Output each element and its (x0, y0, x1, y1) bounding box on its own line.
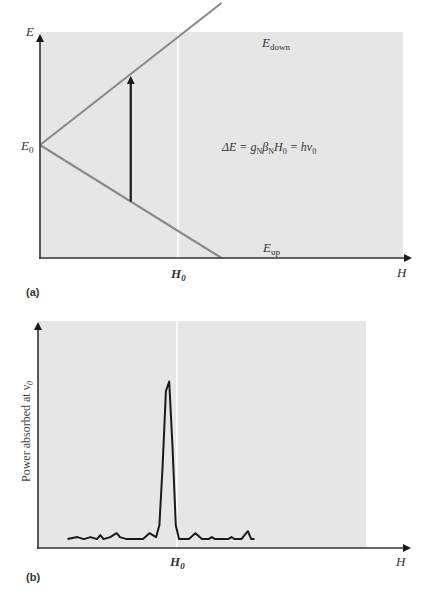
panel-b: Power absorbed at ν0 H H0 (b) (19, 321, 409, 583)
eq-hv: = hν (287, 140, 313, 154)
e-up-sub: up (271, 247, 281, 257)
e-down-main: E (261, 35, 270, 50)
e0-main: E (20, 138, 29, 153)
h0-sub-b: 0 (180, 561, 185, 571)
h-axis-label-b: H (395, 554, 406, 569)
h-axis-label-a: H (396, 265, 407, 280)
e0-label: E0 (20, 138, 34, 155)
h0-label-b: H0 (169, 554, 185, 571)
e-down-sub: down (270, 42, 290, 52)
power-axis-label: Power absorbed at ν0 (19, 381, 35, 482)
e0-sub: 0 (29, 145, 34, 155)
panel-a: E H E0 Edown Eup H0 ΔE = gNβNH0 = hν0 (a… (20, 3, 410, 298)
panel-b-background (38, 321, 366, 548)
power-axis-sub: 0 (26, 381, 35, 385)
e-axis-label: E (25, 24, 34, 39)
power-axis-main: Power absorbed at ν (19, 384, 33, 482)
h0-label-a: H0 (170, 266, 186, 283)
h0-sub-a: 0 (181, 273, 186, 283)
eq-delta-e: ΔE = g (221, 140, 256, 154)
e-up-main: E (262, 240, 271, 255)
panel-b-label: (b) (26, 571, 40, 583)
panel-a-label: (a) (26, 286, 40, 298)
eq-beta: β (261, 140, 268, 154)
figure: E H E0 Edown Eup H0 ΔE = gNβNH0 = hν0 (a… (0, 0, 428, 597)
eq-sub-0b: 0 (312, 147, 316, 156)
